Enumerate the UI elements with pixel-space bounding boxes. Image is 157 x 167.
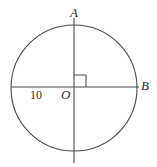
point-label-a: A bbox=[70, 6, 78, 19]
geometry-canvas bbox=[0, 0, 157, 167]
circle-geometry-figure: A B O 10 bbox=[0, 0, 157, 167]
right-angle-mark-icon bbox=[74, 75, 86, 87]
radius-measurement-label: 10 bbox=[30, 89, 42, 101]
point-label-b: B bbox=[141, 79, 149, 92]
center-label-o: O bbox=[61, 88, 70, 101]
